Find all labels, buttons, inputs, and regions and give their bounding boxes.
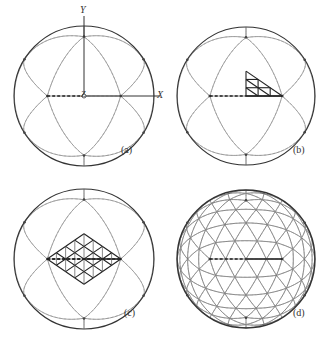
front-edge — [280, 203, 293, 218]
vertex-dot — [245, 199, 248, 202]
front-edge — [304, 60, 314, 132]
panel-label-a: (a) — [121, 144, 132, 155]
panel-label-c: (c) — [124, 307, 135, 318]
vertex-dot — [83, 317, 86, 320]
front-edge — [143, 222, 153, 295]
vertex-dot — [303, 58, 306, 61]
front-edge — [286, 269, 292, 288]
front-edge — [121, 259, 145, 296]
axis-label-z: Z — [81, 90, 85, 99]
back-edge — [230, 308, 236, 318]
front-edge — [181, 270, 187, 289]
vertex-dot — [23, 295, 26, 298]
panel-label-d: (d) — [293, 307, 305, 318]
front-edge — [197, 306, 210, 318]
back-edge — [24, 59, 48, 96]
vertex-dot — [83, 154, 86, 157]
front-edge — [121, 96, 145, 133]
front-edge — [24, 96, 48, 133]
front-edge — [230, 318, 246, 324]
front-edge — [280, 299, 293, 314]
back-edge — [187, 60, 210, 96]
vertex-dot — [245, 153, 248, 156]
back-edge — [286, 219, 293, 230]
front-edge — [282, 60, 305, 96]
vertex-dot — [303, 131, 306, 134]
back-edge — [24, 222, 48, 259]
highlighted-subdivision — [246, 71, 282, 96]
front-edge — [121, 59, 145, 96]
icosphere-figure: (a) (b) (c) (d) Y X Z — [0, 0, 331, 347]
back-edge — [187, 96, 210, 132]
vertex-dot — [142, 295, 145, 298]
front-edge — [199, 269, 205, 288]
axis-label-y: Y — [80, 4, 86, 15]
front-edge — [286, 230, 292, 249]
diagram-canvas — [0, 0, 331, 347]
back-edge — [121, 96, 145, 133]
front-edge — [197, 201, 210, 213]
front-edge — [121, 222, 145, 259]
front-edge — [210, 38, 246, 96]
grid-line — [246, 88, 258, 96]
vertex-dot — [186, 131, 189, 134]
back-edge — [47, 37, 84, 96]
vertex-dot — [23, 58, 26, 61]
front-edge — [282, 201, 295, 213]
front-edge — [246, 193, 262, 199]
back-edge — [256, 308, 262, 318]
vertex-dot — [303, 294, 306, 297]
front-edge — [282, 96, 305, 132]
back-edge — [286, 288, 293, 299]
front-edge — [14, 222, 24, 295]
back-edge — [84, 96, 121, 155]
front-edge — [216, 275, 225, 293]
panel-label-b: (b) — [293, 144, 305, 155]
front-edge — [210, 96, 246, 154]
vertex-dot — [83, 198, 86, 201]
back-edge — [282, 96, 305, 132]
front-edge — [187, 60, 210, 96]
vertex-dot — [23, 221, 26, 224]
back-edge — [199, 219, 206, 230]
front-edge — [24, 259, 48, 296]
vertex-dot — [142, 132, 145, 135]
front-edge — [305, 229, 311, 248]
vertex-dot — [186, 221, 189, 224]
vertex-dot — [186, 58, 189, 61]
front-edge — [199, 299, 212, 314]
vertex-dot — [245, 36, 248, 39]
vertex-dot — [303, 221, 306, 224]
back-edge — [256, 200, 262, 210]
highlighted-subdivision — [47, 234, 121, 284]
front-edge — [24, 222, 48, 259]
back-edge — [230, 200, 236, 210]
back-edge — [121, 222, 145, 259]
back-edge — [24, 259, 48, 296]
back-edge — [210, 96, 246, 154]
front-edge — [177, 60, 187, 132]
front-edge — [47, 96, 84, 155]
back-edge — [121, 59, 145, 96]
front-edge — [187, 96, 210, 132]
front-edge — [267, 225, 276, 243]
front-edge — [84, 37, 121, 96]
back-edge — [282, 60, 305, 96]
front-edge — [246, 96, 282, 154]
front-edge — [181, 229, 187, 248]
back-edge — [121, 259, 145, 296]
front-edge — [24, 59, 48, 96]
vertex-dot — [142, 58, 145, 61]
front-edge — [84, 96, 121, 155]
back-edge — [246, 96, 282, 154]
vertex-dot — [186, 294, 189, 297]
axis-label-x: X — [157, 89, 163, 100]
front-edge — [267, 275, 276, 293]
front-edge — [199, 203, 212, 218]
front-edge — [14, 59, 24, 132]
back-edge — [24, 96, 48, 133]
front-edge — [199, 230, 205, 249]
back-edge — [47, 96, 84, 155]
front-edge — [216, 225, 225, 243]
back-edge — [199, 288, 206, 299]
